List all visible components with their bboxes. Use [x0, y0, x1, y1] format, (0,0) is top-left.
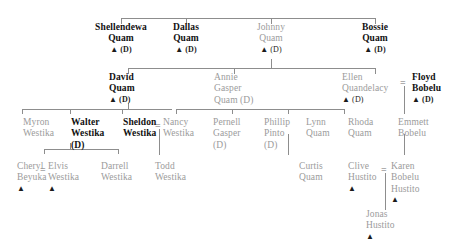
person-name-line1: Phillip	[264, 117, 312, 128]
drop-sheldon	[122, 109, 123, 114]
person-name-line1: David	[109, 72, 169, 83]
person-name-line2: Quam	[348, 128, 396, 139]
person-name-line1: Karen	[391, 161, 441, 172]
sibling-bar-david-children	[22, 109, 172, 110]
drop-pernell	[176, 109, 177, 114]
potter-deceased-marker: ▲ (D)	[412, 95, 464, 104]
descent-johnny-to-gen2	[271, 59, 272, 68]
potter-marker: ▲	[348, 184, 396, 193]
person-deceased-marker: (D)	[264, 140, 312, 151]
person-name-line3: Quam (D)	[214, 95, 284, 106]
person-name-line1: Lynn	[306, 117, 351, 128]
person-walter-westika[interactable]: Walter Westika (D)	[71, 117, 121, 151]
person-name-line1: Jonas	[366, 209, 414, 220]
sibling-bar-gen2	[128, 68, 375, 69]
person-name-line1: Clive	[348, 161, 396, 172]
person-name-line3: Hustito	[391, 184, 441, 195]
person-name-line2: Westika	[71, 128, 121, 139]
drop-myron	[22, 109, 23, 114]
person-name-line1: Rhoda	[348, 117, 396, 128]
person-name-line2: Quandelacy	[342, 83, 406, 94]
person-name-line1: Bossie	[340, 22, 410, 33]
person-johnny-quam[interactable]: Johnny Quam ▲ (D)	[236, 22, 306, 54]
potter-marker: ▲	[391, 195, 441, 204]
person-pernell-gasper[interactable]: Pernell Gasper (D)	[213, 117, 263, 151]
person-elvis-westika[interactable]: Elvis Westika ▲	[48, 161, 96, 193]
potter-marker: ▲	[366, 232, 414, 241]
person-bossie-quam[interactable]: Bossie Quam ▲ (D)	[340, 22, 410, 54]
person-name-line1: Dallas	[151, 22, 221, 33]
person-name-line1: Nancy	[163, 117, 213, 128]
person-dallas-quam[interactable]: Dallas Quam ▲ (D)	[151, 22, 221, 54]
potter-deceased-marker: ▲ (D)	[109, 95, 169, 104]
person-name-line1: Johnny	[236, 22, 306, 33]
family-tree-diagram: = = = = Shellendewa Quam ▲ (D) Dallas Qu…	[0, 0, 464, 241]
person-rhoda-quam[interactable]: Rhoda Quam	[348, 117, 396, 140]
person-name-line2: Bobelu	[398, 128, 450, 139]
person-curtis-quam[interactable]: Curtis Quam	[299, 161, 344, 184]
sibling-bar-gen1	[121, 18, 375, 19]
person-name-line2: Westika	[48, 172, 96, 183]
person-name-line1: Pernell	[213, 117, 263, 128]
person-name-line1: Ellen	[342, 72, 406, 83]
person-ellen-quandelacy[interactable]: Ellen Quandelacy ▲ (D)	[342, 72, 406, 104]
drop-walter	[70, 109, 71, 114]
person-david-quam[interactable]: David Quam ▲ (D)	[109, 72, 169, 104]
drop-emmett	[404, 109, 405, 114]
potter-deceased-marker: ▲ (D)	[342, 95, 406, 104]
drop-phillip	[232, 109, 233, 114]
drop-lynn	[288, 109, 289, 114]
person-name-line1: Annie	[214, 72, 284, 83]
person-nancy-westika[interactable]: Nancy Westika	[163, 117, 213, 140]
person-deceased-marker: (D)	[71, 140, 121, 151]
sibling-bar-ellen-children	[176, 109, 344, 110]
person-emmett-bobelu[interactable]: Emmett Bobelu	[398, 117, 450, 140]
person-darrell-westika[interactable]: Darrell Westika	[101, 161, 151, 184]
person-karen-bobelu-hustito[interactable]: Karen Bobelu Hustito ▲	[391, 161, 441, 204]
person-name-line2: Quam	[306, 128, 351, 139]
person-name-line1: Darrell	[101, 161, 151, 172]
drop-elvis	[44, 149, 45, 154]
person-name-line2: Gasper	[214, 83, 284, 94]
potter-deceased-marker: ▲ (D)	[236, 45, 306, 54]
person-name-line2: Westika	[155, 172, 203, 183]
person-clive-hustito[interactable]: Clive Hustito ▲	[348, 161, 396, 193]
person-myron-westika[interactable]: Myron Westika	[23, 117, 71, 140]
person-name-line2: Quam	[299, 172, 344, 183]
person-name-line2: Pinto	[264, 128, 312, 139]
person-name-line2: Quam	[151, 33, 221, 44]
person-name-line2: Bobelu	[412, 83, 464, 94]
person-deceased-marker: (D)	[213, 140, 263, 151]
person-name-line2: Westika	[163, 128, 213, 139]
person-floyd-bobelu[interactable]: Floyd Bobelu ▲ (D)	[412, 72, 464, 104]
person-name-line1: Curtis	[299, 161, 344, 172]
person-name-line1: Emmett	[398, 117, 450, 128]
person-lynn-quam[interactable]: Lynn Quam	[306, 117, 351, 140]
person-phillip-pinto[interactable]: Phillip Pinto (D)	[264, 117, 312, 151]
person-name-line2: Quam	[340, 33, 410, 44]
potter-deceased-marker: ▲ (D)	[151, 45, 221, 54]
person-name-line1: Walter	[71, 117, 121, 128]
person-name-line2: Hustito	[348, 172, 396, 183]
person-annie-gasper-quam[interactable]: Annie Gasper Quam (D)	[214, 72, 284, 106]
person-name-line2: Quam	[236, 33, 306, 44]
person-name-line2: Westika	[101, 172, 151, 183]
person-name-line2: Hustito	[366, 220, 414, 231]
potter-marker: ▲	[48, 184, 96, 193]
person-name-line1: Floyd	[412, 72, 464, 83]
person-name-line2: Gasper	[213, 128, 263, 139]
person-name-line2: Bobelu	[391, 172, 441, 183]
person-name-line1: Elvis	[48, 161, 96, 172]
potter-deceased-marker: ▲ (D)	[340, 45, 410, 54]
person-todd-westika[interactable]: Todd Westika	[155, 161, 203, 184]
person-name-line1: Myron	[23, 117, 71, 128]
person-jonas-hustito[interactable]: Jonas Hustito ▲	[366, 209, 414, 241]
drop-rhoda	[344, 109, 345, 114]
person-name-line1: Todd	[155, 161, 203, 172]
person-name-line2: Westika	[23, 128, 71, 139]
person-name-line2: Quam	[109, 83, 169, 94]
